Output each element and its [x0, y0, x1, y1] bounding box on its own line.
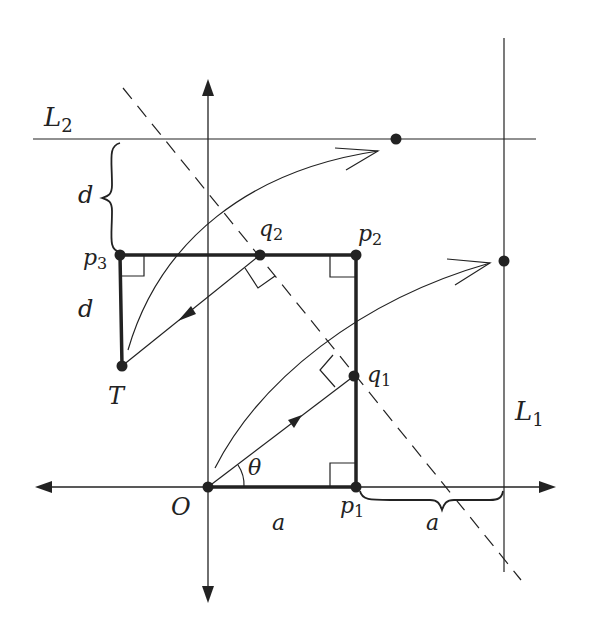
curve-T-to-L2	[128, 151, 378, 350]
angle-theta-arc	[238, 465, 244, 487]
geometry-diagram: L2 L1 d d p3 p2 q2 q1 p1 T O θ a a	[0, 0, 589, 638]
ray-O-q1-arrow-icon	[288, 415, 302, 428]
label-L2: L2	[43, 102, 73, 136]
label-q2: q2	[259, 216, 283, 244]
point-p1	[351, 482, 362, 493]
x-axis-left-arrow-icon	[35, 481, 52, 493]
label-d-lower: d	[78, 295, 93, 323]
label-O: O	[171, 493, 191, 521]
brace-d	[102, 143, 120, 252]
y-axis-down-arrow-icon	[202, 586, 214, 603]
label-d-upper: d	[78, 181, 93, 209]
label-a-bottom: a	[272, 510, 285, 535]
label-a-right: a	[426, 510, 439, 535]
point-T	[117, 361, 128, 372]
label-T: T	[108, 382, 126, 410]
point-q2	[255, 250, 266, 261]
right-angle-q1	[320, 355, 335, 387]
label-theta: θ	[248, 455, 261, 480]
label-p1: p1	[340, 493, 364, 521]
label-p2: p2	[358, 221, 382, 249]
right-angle-p3	[122, 255, 144, 276]
y-axis-up-arrow-icon	[202, 79, 214, 96]
ray-O-q1	[208, 376, 354, 487]
point-O	[203, 482, 214, 493]
label-q1: q1	[367, 362, 391, 390]
point-p3	[115, 250, 126, 261]
label-L1: L1	[514, 396, 544, 430]
point-on-L1	[499, 256, 510, 267]
y-axis	[202, 79, 214, 603]
curve-O-to-L1	[215, 263, 490, 468]
brace-a	[360, 491, 503, 510]
curve-O-to-L1-arrowhead-icon	[447, 259, 490, 285]
label-p3: p3	[83, 245, 107, 273]
point-p2	[351, 250, 362, 261]
curve-T-to-L2-arrowhead-icon	[335, 148, 378, 170]
point-q1	[349, 371, 360, 382]
x-axis-right-arrow-icon	[539, 481, 556, 493]
point-on-L2	[391, 134, 402, 145]
